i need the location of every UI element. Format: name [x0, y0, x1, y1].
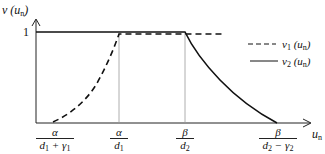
x-tick-alpha-d1-gamma1: α d1 + γ1: [36, 126, 74, 154]
legend-v2-label: v2 (un): [282, 55, 310, 71]
series-v1-line: [53, 34, 222, 122]
x-axis-label: un: [312, 128, 322, 144]
x-tick-alpha-d1: α d1: [110, 126, 128, 154]
x-tick-beta-d2-gamma2: β d2 − γ2: [259, 126, 297, 154]
legend-v1-label: v1 (un): [282, 38, 310, 54]
chart: v (un) 1 un α d1 + γ1 α d1 β d2 β d2 − γ…: [0, 0, 325, 154]
series-v2-line: [36, 32, 277, 123]
x-tick-beta-d2: β d2: [176, 126, 194, 154]
y-axis-label: v (un): [2, 4, 28, 20]
y-tick-one: 1: [23, 26, 29, 38]
